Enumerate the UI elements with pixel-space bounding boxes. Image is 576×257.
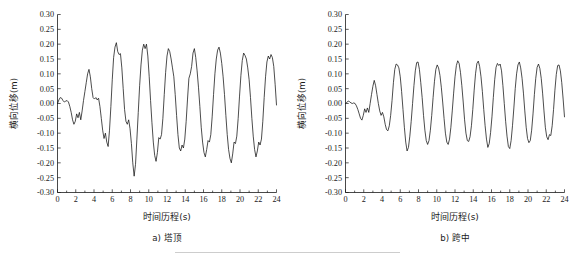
svg-text:0.20: 0.20	[328, 40, 342, 49]
svg-text:0.25: 0.25	[328, 25, 342, 34]
chart-a-y-axis-label: 横向位移(m)	[8, 78, 19, 129]
svg-text:24: 24	[272, 195, 280, 204]
svg-text:16: 16	[199, 195, 207, 204]
svg-text:0.10: 0.10	[40, 70, 54, 79]
svg-text:0.15: 0.15	[40, 55, 54, 64]
svg-text:-0.15: -0.15	[325, 144, 342, 153]
chart-b-data-line	[346, 61, 565, 151]
svg-text:-0.05: -0.05	[37, 114, 54, 123]
svg-text:18: 18	[506, 195, 514, 204]
svg-text:0: 0	[343, 195, 347, 204]
svg-text:24: 24	[560, 195, 568, 204]
svg-text:8: 8	[416, 195, 420, 204]
svg-text:8: 8	[128, 195, 132, 204]
svg-text:0: 0	[55, 195, 59, 204]
svg-text:-0.25: -0.25	[37, 174, 54, 183]
svg-text:-0.10: -0.10	[37, 129, 54, 138]
svg-text:0.30: 0.30	[40, 10, 54, 19]
svg-text:-0.30: -0.30	[325, 188, 342, 197]
svg-text:0.05: 0.05	[40, 85, 54, 94]
svg-text:2: 2	[362, 195, 366, 204]
svg-text:22: 22	[254, 195, 262, 204]
figure-container: -0.30-0.25-0.20-0.15-0.10-0.050.000.050.…	[0, 0, 576, 257]
svg-text:0.00: 0.00	[40, 99, 54, 108]
svg-text:20: 20	[524, 195, 532, 204]
svg-text:-0.15: -0.15	[37, 144, 54, 153]
svg-text:0.05: 0.05	[328, 85, 342, 94]
chart-b-svg: -0.30-0.25-0.20-0.15-0.10-0.050.000.050.…	[288, 0, 576, 257]
svg-text:0.00: 0.00	[328, 99, 342, 108]
chart-b-caption: b) 跨中	[440, 232, 470, 243]
svg-text:-0.30: -0.30	[37, 188, 54, 197]
svg-text:-0.20: -0.20	[325, 159, 342, 168]
svg-text:-0.05: -0.05	[325, 114, 342, 123]
svg-text:12: 12	[163, 195, 171, 204]
svg-text:0.30: 0.30	[328, 10, 342, 19]
svg-text:-0.20: -0.20	[37, 159, 54, 168]
svg-text:22: 22	[542, 195, 550, 204]
svg-text:10: 10	[145, 195, 153, 204]
svg-text:6: 6	[110, 195, 114, 204]
svg-text:0.10: 0.10	[328, 70, 342, 79]
chart-b-y-axis-label: 横向位移(m)	[296, 78, 307, 129]
chart-b-x-axis-label: 时间历程(s)	[431, 211, 479, 222]
svg-text:6: 6	[398, 195, 402, 204]
chart-panel-a: -0.30-0.25-0.20-0.15-0.10-0.050.000.050.…	[0, 0, 288, 257]
svg-text:4: 4	[380, 195, 384, 204]
svg-text:14: 14	[469, 195, 477, 204]
svg-text:4: 4	[92, 195, 96, 204]
chart-a-tick-labels: -0.30-0.25-0.20-0.15-0.10-0.050.000.050.…	[37, 10, 281, 204]
svg-text:0.15: 0.15	[328, 55, 342, 64]
chart-a-svg: -0.30-0.25-0.20-0.15-0.10-0.050.000.050.…	[0, 0, 288, 257]
svg-text:0.25: 0.25	[40, 25, 54, 34]
svg-text:18: 18	[218, 195, 226, 204]
svg-text:14: 14	[181, 195, 189, 204]
svg-text:20: 20	[236, 195, 244, 204]
chart-a-x-axis-label: 时间历程(s)	[143, 211, 191, 222]
chart-b-tick-labels: -0.30-0.25-0.20-0.15-0.10-0.050.000.050.…	[325, 10, 569, 204]
svg-text:12: 12	[451, 195, 459, 204]
footer-divider	[175, 252, 400, 253]
chart-panel-b: -0.30-0.25-0.20-0.15-0.10-0.050.000.050.…	[288, 0, 576, 257]
chart-a-data-line	[58, 43, 277, 177]
svg-text:-0.10: -0.10	[325, 129, 342, 138]
svg-text:10: 10	[433, 195, 441, 204]
svg-text:2: 2	[74, 195, 78, 204]
chart-a-caption: a) 塔顶	[152, 232, 181, 243]
svg-text:-0.25: -0.25	[325, 174, 342, 183]
svg-text:16: 16	[487, 195, 495, 204]
svg-text:0.20: 0.20	[40, 40, 54, 49]
chart-a-axes	[58, 15, 277, 193]
